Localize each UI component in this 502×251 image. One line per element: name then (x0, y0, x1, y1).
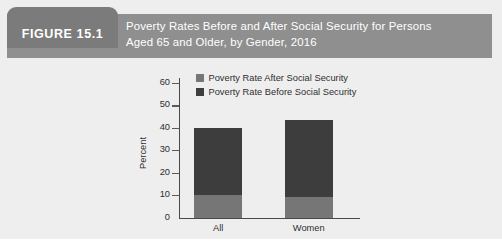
y-axis-tick (172, 150, 179, 151)
chart-legend: Poverty Rate After Social SecurityPovert… (196, 72, 356, 100)
y-axis-tick-label-wrap: 40 (142, 128, 170, 129)
y-axis-line (179, 78, 180, 219)
y-axis-tick-label: 10 (144, 189, 170, 199)
y-axis-tick-label-wrap: 10 (142, 195, 170, 196)
y-axis-tick-label-wrap: 20 (142, 173, 170, 174)
y-axis-tick (172, 128, 179, 129)
figure-number-label: FIGURE 15.1 (22, 27, 104, 41)
y-axis-tick-label-wrap: 0 (142, 218, 170, 219)
y-axis-tick-label: 0 (144, 212, 170, 222)
y-axis-tick-label-wrap: 60 (142, 83, 170, 84)
y-axis-tick (172, 173, 179, 174)
legend-label: Poverty Rate After Social Security (209, 73, 349, 83)
legend-swatch-icon (196, 88, 204, 96)
bar-stack (285, 120, 333, 218)
y-axis-tick-label: 30 (144, 144, 170, 154)
bar-segment-after-social-security (285, 197, 333, 217)
figure-title: Poverty Rates Before and After Social Se… (126, 19, 476, 50)
y-axis-tick (172, 105, 179, 106)
y-axis-tick (172, 195, 179, 196)
legend-item: Poverty Rate Before Social Security (196, 86, 356, 98)
y-axis-tick-label: 20 (144, 167, 170, 177)
figure-title-line-2: Aged 65 and Older, by Gender, 2016 (126, 35, 476, 51)
legend-item: Poverty Rate After Social Security (196, 72, 356, 84)
bar-segment-after-social-security (194, 195, 242, 217)
chart-plot-area: Percent 0102030405060 AllWomen Poverty R… (0, 58, 502, 239)
y-axis-tick (172, 83, 179, 84)
legend-label: Poverty Rate Before Social Security (209, 87, 357, 97)
figure-panel: FIGURE 15.1 Poverty Rates Before and Aft… (0, 0, 502, 239)
legend-swatch-icon (196, 74, 204, 82)
y-axis-tick-label: 40 (144, 122, 170, 132)
y-axis-tick-label-wrap: 50 (142, 105, 170, 106)
x-axis-tick-label: All (188, 223, 248, 233)
y-axis-tick-label: 60 (144, 77, 170, 87)
figure-number-tab: FIGURE 15.1 (7, 7, 118, 48)
bar-segment-before-social-security (194, 128, 242, 195)
x-axis-line (179, 218, 360, 220)
y-axis-tick-label-wrap: 30 (142, 150, 170, 151)
bar-stack (194, 128, 242, 218)
figure-title-line-1: Poverty Rates Before and After Social Se… (126, 19, 476, 35)
y-axis-tick-label: 50 (144, 99, 170, 109)
x-axis-tick-label: Women (279, 223, 339, 233)
bar-segment-before-social-security (285, 120, 333, 197)
